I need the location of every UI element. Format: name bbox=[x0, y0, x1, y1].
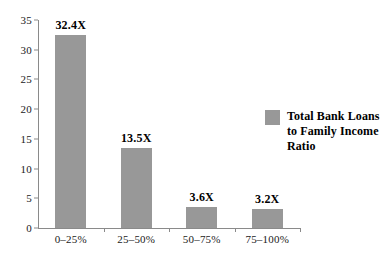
bar bbox=[121, 148, 152, 228]
y-axis-tick-label: 5 bbox=[26, 192, 32, 204]
x-axis-tick-mark bbox=[104, 228, 105, 232]
x-axis-tick-label: 50–75% bbox=[167, 233, 237, 245]
x-axis-tick-label: 0–25% bbox=[36, 233, 106, 245]
bar-data-label: 13.5X bbox=[106, 131, 166, 146]
x-axis-tick-mark bbox=[169, 228, 170, 232]
y-axis-tick-label: 0 bbox=[26, 222, 32, 234]
bar bbox=[55, 35, 86, 228]
y-axis-tick-label: 15 bbox=[21, 133, 32, 145]
y-axis-tick-label: 25 bbox=[21, 73, 32, 85]
chart-legend: Total Bank Loans to Family Income Ratio bbox=[265, 109, 380, 154]
y-axis-tick-label: 20 bbox=[21, 103, 32, 115]
y-axis-tick-label: 10 bbox=[21, 163, 32, 175]
bar-data-label: 32.4X bbox=[41, 18, 101, 33]
legend-swatch-series-1 bbox=[265, 110, 280, 125]
x-axis-tick-mark bbox=[300, 228, 301, 232]
x-axis-tick-label: 25–50% bbox=[101, 233, 171, 245]
x-axis-tick-mark bbox=[235, 228, 236, 232]
bar-data-label: 3.6X bbox=[172, 190, 232, 205]
x-axis-tick-label: 75–100% bbox=[232, 233, 302, 245]
legend-label-line-2: to Family Income bbox=[287, 124, 380, 139]
legend-label-line-1: Total Bank Loans bbox=[287, 109, 380, 124]
chart-screenshot: 05101520253035 Total Bank Loans to Famil… bbox=[0, 0, 389, 254]
y-axis-ticks: 05101520253035 bbox=[0, 0, 38, 254]
bar bbox=[252, 209, 283, 228]
legend-label-series-1: Total Bank Loans to Family Income Ratio bbox=[287, 109, 380, 154]
y-axis-tick-label: 35 bbox=[21, 14, 32, 26]
y-axis-tick-label: 30 bbox=[21, 44, 32, 56]
legend-label-line-3: Ratio bbox=[287, 139, 380, 154]
bar bbox=[186, 207, 217, 228]
bar-data-label: 3.2X bbox=[237, 192, 297, 207]
